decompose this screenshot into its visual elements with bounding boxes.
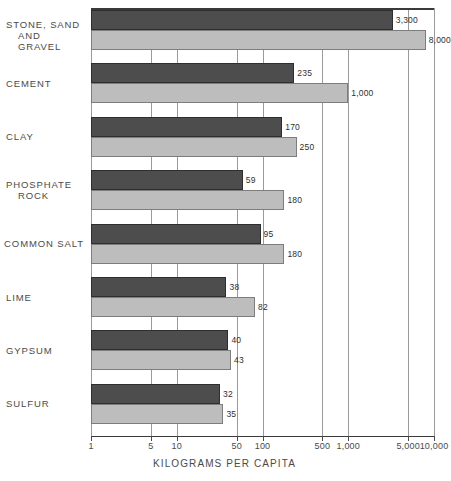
bar-dark <box>91 277 226 297</box>
x-axis-tick-label: 50 <box>231 441 241 452</box>
grid-line <box>434 8 435 436</box>
category-label: CEMENT <box>0 78 86 89</box>
x-axis-tick-label: 100 <box>255 441 271 452</box>
category-label-line: SULFUR <box>6 398 86 409</box>
category-label: STONE, SANDAND GRAVEL <box>0 19 86 52</box>
bar-value-label: 32 <box>223 389 233 399</box>
bar-light <box>91 137 297 157</box>
bar-light <box>91 83 348 103</box>
category-label: SULFUR <box>0 398 86 409</box>
grid-line <box>348 8 349 436</box>
category-label-line: AND GRAVEL <box>6 30 86 52</box>
bar-dark <box>91 10 393 30</box>
category-label-line: STONE, SAND <box>6 19 86 30</box>
bar-dark <box>91 384 220 404</box>
category-label: COMMON SALT <box>0 238 86 249</box>
bar-light <box>91 244 284 264</box>
x-axis-title: KILOGRAMS PER CAPITA <box>0 458 449 469</box>
x-axis-tick-label: 10,000 <box>420 441 449 452</box>
bar-light <box>91 30 426 50</box>
category-label-line: GYPSUM <box>6 345 86 356</box>
bar-light <box>91 190 284 210</box>
category-label: PHOSPHATEROCK <box>0 179 86 201</box>
bar-value-label: 95 <box>264 229 274 239</box>
category-label-line: LIME <box>6 292 86 303</box>
x-axis-tick-label: 500 <box>315 441 331 452</box>
bar-light <box>91 404 223 424</box>
bar-value-label: 40 <box>231 335 241 345</box>
bar-dark <box>91 224 261 244</box>
bar-value-label: 38 <box>229 282 239 292</box>
category-label-line: ROCK <box>6 190 86 201</box>
bar-value-label: 8,000 <box>429 35 451 45</box>
bar-value-label: 235 <box>297 68 312 78</box>
bar-light <box>91 297 255 317</box>
bar-dark <box>91 63 294 83</box>
grid-line <box>408 8 409 436</box>
bar-value-label: 3,300 <box>396 15 418 25</box>
bar-light <box>91 350 231 370</box>
category-label-line: COMMON SALT <box>0 238 84 249</box>
x-axis-tick-label: 1 <box>88 441 93 452</box>
bar-value-label: 180 <box>287 195 302 205</box>
category-label-line: CLAY <box>6 131 86 142</box>
bar-value-label: 59 <box>246 175 256 185</box>
x-axis-tick-label: 5,000 <box>396 441 420 452</box>
x-axis-tick-label: 10 <box>172 441 182 452</box>
bar-value-label: 1,000 <box>351 88 373 98</box>
category-label-line: PHOSPHATE <box>6 179 86 190</box>
x-axis-tick-label: 1,000 <box>336 441 360 452</box>
bar-value-label: 82 <box>258 302 268 312</box>
category-label: CLAY <box>0 131 86 142</box>
bar-value-label: 35 <box>226 409 236 419</box>
bar-dark <box>91 117 282 137</box>
bar-value-label: 170 <box>285 122 300 132</box>
bar-value-label: 43 <box>234 355 244 365</box>
category-label: LIME <box>0 292 86 303</box>
x-axis-tick-label: 5 <box>148 441 153 452</box>
category-label: GYPSUM <box>0 345 86 356</box>
bar-value-label: 180 <box>287 249 302 259</box>
bar-value-label: 250 <box>300 142 315 152</box>
bar-dark <box>91 170 243 190</box>
category-label-line: CEMENT <box>6 78 86 89</box>
grid-line <box>322 8 323 436</box>
bar-dark <box>91 330 228 350</box>
